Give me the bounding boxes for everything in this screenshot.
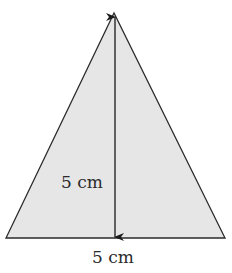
triangle-figure — [0, 0, 232, 273]
triangle-diagram: 5 cm 5 cm — [0, 0, 232, 273]
height-label: 5 cm — [61, 174, 103, 191]
base-label: 5 cm — [92, 249, 134, 266]
